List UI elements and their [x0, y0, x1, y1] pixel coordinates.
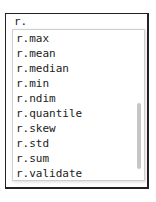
- completion-item[interactable]: r.quantile: [16, 106, 82, 121]
- dropdown-scrollbar[interactable]: [137, 103, 141, 169]
- completion-item[interactable]: r.std: [16, 136, 49, 151]
- completion-item[interactable]: r.ndim: [16, 91, 56, 106]
- completion-item[interactable]: r.validate: [16, 166, 82, 181]
- completion-item[interactable]: r.median: [16, 61, 69, 76]
- completion-item[interactable]: r.skew: [16, 121, 56, 136]
- completion-item[interactable]: r.max: [16, 31, 49, 46]
- code-input[interactable]: r.: [14, 15, 27, 29]
- completion-item[interactable]: r.min: [16, 76, 49, 91]
- completion-item[interactable]: r.sum: [16, 151, 49, 166]
- autocomplete-dropdown: r.max r.mean r.median r.min r.ndim r.qua…: [12, 29, 145, 181]
- completion-item[interactable]: r.mean: [16, 46, 56, 61]
